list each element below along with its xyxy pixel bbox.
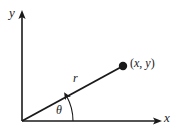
angle-arc-path: [67, 97, 73, 121]
angle-arc: [64, 92, 73, 121]
y-axis-label: y: [9, 6, 15, 19]
x-axis: [22, 117, 162, 124]
point-marker-dot: [119, 62, 127, 70]
close-paren: ): [151, 56, 155, 70]
y-axis: [18, 10, 25, 121]
x-axis-label: x: [164, 111, 170, 124]
polar-coordinate-figure: y x r θ (x, y): [0, 0, 177, 131]
radius-label: r: [73, 72, 78, 84]
point-coordinate-label: (x, y): [130, 57, 155, 69]
coordinate-comma: ,: [139, 56, 142, 70]
angle-label-theta: θ: [56, 104, 62, 116]
